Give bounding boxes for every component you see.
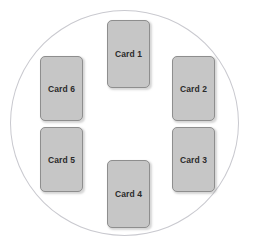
card-6-label: Card 6	[48, 84, 75, 94]
card-1[interactable]: Card 1	[107, 20, 150, 88]
card-2[interactable]: Card 2	[172, 56, 215, 121]
card-5[interactable]: Card 5	[40, 127, 83, 192]
card-3-label: Card 3	[180, 155, 207, 165]
card-4[interactable]: Card 4	[107, 160, 150, 228]
card-5-label: Card 5	[48, 155, 75, 165]
card-4-label: Card 4	[115, 189, 142, 199]
card-6[interactable]: Card 6	[40, 56, 83, 121]
card-3[interactable]: Card 3	[172, 127, 215, 192]
clipped-header-text	[0, 0, 253, 4]
card-1-label: Card 1	[115, 49, 142, 59]
diagram-canvas: Card 1 Card 2 Card 3 Card 4 Card 5 Card …	[0, 0, 253, 246]
card-2-label: Card 2	[180, 84, 207, 94]
